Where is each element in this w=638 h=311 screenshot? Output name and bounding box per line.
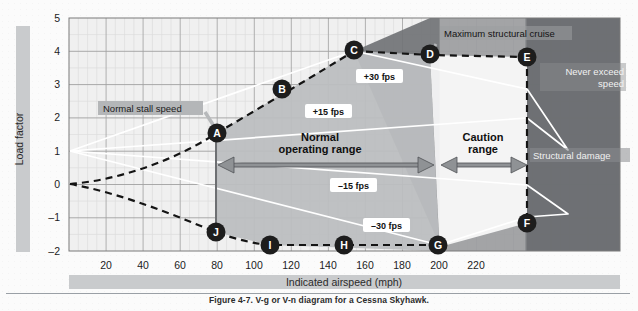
- figure-caption: Figure 4-7. V-g or V-n diagram for a Ces…: [0, 295, 638, 305]
- gust-label-plus15-text: +15 fps: [313, 107, 344, 117]
- x-tick-220: 220: [467, 259, 485, 271]
- point-marker-I: I: [261, 236, 280, 255]
- point-marker-G: G: [429, 236, 448, 255]
- gust-label-minus30: –30 fps: [363, 218, 410, 232]
- x-axis-label: Indicated airspeed (mph): [286, 276, 402, 288]
- point-label-D: D: [426, 48, 434, 60]
- gust-label-plus30-text: +30 fps: [364, 72, 395, 82]
- point-label-J: J: [213, 226, 219, 238]
- normal-operating-range-label-line1: Normal: [301, 131, 339, 143]
- point-label-A: A: [213, 127, 221, 139]
- point-marker-H: H: [335, 236, 354, 255]
- point-marker-F: F: [518, 214, 537, 233]
- y-tick-neg1: –1: [48, 211, 60, 223]
- chart-canvas: Load factor: [0, 0, 638, 311]
- point-marker-E: E: [518, 48, 537, 67]
- y-axis-label: Load factor: [13, 112, 25, 165]
- x-tick-100: 100: [245, 259, 263, 271]
- normal-stall-speed-label: Normal stall speed: [103, 103, 182, 114]
- x-tick-20: 20: [100, 259, 112, 271]
- point-label-I: I: [269, 239, 272, 251]
- never-exceed-speed-label-line1: Never exceed: [565, 66, 624, 77]
- normal-operating-range-label-line2: operating range: [278, 143, 361, 155]
- never-exceed-speed-annotation: Never exceed speed: [540, 63, 626, 91]
- vn-diagram-svg: Load factor: [0, 0, 638, 311]
- gust-label-minus30-text: –30 fps: [371, 221, 402, 231]
- y-tick-5: 5: [54, 12, 60, 24]
- point-marker-J: J: [207, 223, 226, 242]
- structural-damage-label: Structural damage: [533, 150, 611, 161]
- gust-label-plus15: +15 fps: [305, 104, 352, 118]
- y-tick-0: 0: [54, 178, 60, 190]
- y-tick-2: 2: [54, 111, 60, 123]
- point-marker-B: B: [273, 80, 292, 99]
- x-tick-160: 160: [356, 259, 374, 271]
- y-tick-4: 4: [54, 45, 60, 57]
- x-tick-40: 40: [137, 259, 149, 271]
- never-exceed-speed-label-line2: speed: [598, 78, 624, 89]
- caution-range-label-line1: Caution: [463, 131, 504, 143]
- gust-label-minus15-text: –15 fps: [338, 181, 369, 191]
- y-tick-3: 3: [54, 78, 60, 90]
- x-tick-80: 80: [211, 259, 223, 271]
- point-marker-D: D: [421, 45, 440, 64]
- x-tick-140: 140: [319, 259, 337, 271]
- gust-label-minus15: –15 fps: [330, 178, 377, 192]
- caution-range-label-line2: range: [468, 143, 498, 155]
- caption-divider: [6, 293, 630, 294]
- x-tick-200: 200: [430, 259, 448, 271]
- point-marker-C: C: [345, 41, 364, 60]
- x-tick-60: 60: [174, 259, 186, 271]
- point-label-G: G: [434, 239, 442, 251]
- y-tick-1: 1: [54, 145, 60, 157]
- structural-damage-annotation: Structural damage: [530, 148, 630, 162]
- point-label-H: H: [340, 239, 348, 251]
- point-label-B: B: [278, 83, 286, 95]
- figure-container: Load factor: [0, 0, 638, 311]
- gust-label-plus30: +30 fps: [356, 69, 403, 83]
- x-axis-label-band: Indicated airspeed (mph): [69, 275, 620, 289]
- x-tick-180: 180: [393, 259, 411, 271]
- point-label-C: C: [350, 44, 358, 56]
- y-tick-neg2: –2: [48, 245, 60, 257]
- point-label-F: F: [524, 217, 531, 229]
- x-tick-120: 120: [282, 259, 300, 271]
- point-marker-A: A: [208, 124, 227, 143]
- max-structural-cruise-label: Maximum structural cruise: [444, 28, 555, 39]
- point-label-E: E: [523, 51, 530, 63]
